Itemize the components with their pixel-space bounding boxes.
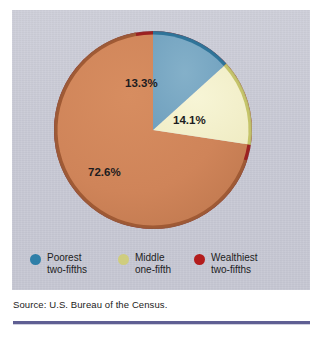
source-note: Source: U.S. Bureau of the Census. — [13, 299, 167, 310]
legend-label-wealthiest-line1: Wealthiest — [211, 252, 258, 264]
legend-swatch-wealthiest-icon — [194, 254, 205, 265]
legend-swatch-poorest-icon — [30, 254, 41, 265]
legend-label-middle-line2: one-fifth — [135, 264, 171, 276]
bottom-rule-shadow — [13, 324, 310, 325]
legend-label-middle-line1: Middle — [135, 252, 171, 264]
slice-value-wealthiest: 72.6% — [88, 166, 121, 178]
legend-item-wealthiest[interactable]: Wealthiest two-fifths — [194, 252, 294, 275]
legend-label-poorest-line2: two-fifths — [47, 264, 87, 276]
legend-swatch-middle-icon — [118, 254, 129, 265]
legend-label-wealthiest-line2: two-fifths — [211, 264, 258, 276]
legend-label-wealthiest: Wealthiest two-fifths — [211, 252, 258, 275]
chart-legend: Poorest two-fifths Middle one-fifth Weal… — [30, 252, 298, 286]
slice-value-poorest: 13.3% — [125, 77, 158, 89]
legend-label-poorest-line1: Poorest — [47, 252, 87, 264]
chart-panel: 13.3% 14.1% 72.6% Poorest two-fifths Mid… — [12, 10, 310, 290]
pie-chart-svg: 13.3% 14.1% 72.6% — [12, 10, 310, 242]
legend-item-poorest[interactable]: Poorest two-fifths — [30, 252, 118, 275]
pie-slices — [58, 35, 249, 226]
slice-value-middle: 14.1% — [173, 114, 206, 126]
figure-root: 13.3% 14.1% 72.6% Poorest two-fifths Mid… — [0, 0, 325, 337]
legend-label-poorest: Poorest two-fifths — [47, 252, 87, 275]
legend-item-middle[interactable]: Middle one-fifth — [118, 252, 194, 275]
legend-label-middle: Middle one-fifth — [135, 252, 171, 275]
pie-chart: 13.3% 14.1% 72.6% — [12, 10, 310, 242]
